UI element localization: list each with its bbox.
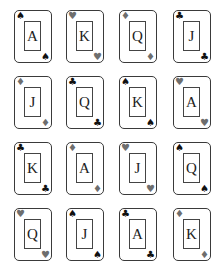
- heart-icon: ♥: [121, 143, 130, 153]
- heart-icon: ♥: [175, 77, 184, 87]
- playing-card[interactable]: ♣K♣: [14, 142, 52, 195]
- card-rank: J: [82, 227, 88, 242]
- card-face-frame: Q: [129, 21, 146, 51]
- playing-card[interactable]: ♦J♦: [14, 76, 52, 129]
- playing-card[interactable]: ♠A♠: [14, 10, 52, 63]
- diamond-icon: ♦: [121, 11, 130, 21]
- club-icon: ♣: [93, 118, 102, 128]
- playing-card[interactable]: ♦A♦: [66, 142, 104, 195]
- club-icon: ♣: [146, 250, 155, 260]
- card-face-frame: K: [24, 153, 41, 183]
- club-icon: ♣: [175, 11, 184, 21]
- card-rank: K: [132, 95, 143, 110]
- heart-icon: ♥: [16, 209, 25, 219]
- club-icon: ♣: [121, 209, 130, 219]
- card-face-frame: A: [183, 87, 200, 117]
- playing-card[interactable]: ♠Q♠: [173, 142, 211, 195]
- card-rank: J: [135, 161, 141, 176]
- spade-icon: ♠: [16, 11, 25, 21]
- heart-icon: ♥: [41, 250, 50, 260]
- card-face-frame: Q: [183, 153, 200, 183]
- card-rank: J: [30, 95, 36, 110]
- card-rank: A: [186, 95, 197, 110]
- card-face-frame: J: [129, 153, 146, 183]
- card-face-frame: Q: [76, 87, 93, 117]
- card-rank: Q: [132, 29, 143, 44]
- spade-icon: ♠: [41, 52, 50, 62]
- playing-card[interactable]: ♥Q♥: [14, 208, 52, 261]
- card-rank: Q: [186, 161, 197, 176]
- club-icon: ♣: [200, 52, 209, 62]
- card-rank: Q: [79, 95, 90, 110]
- card-face-frame: J: [183, 21, 200, 51]
- diamond-icon: ♦: [16, 77, 25, 87]
- spade-icon: ♠: [175, 143, 184, 153]
- playing-card[interactable]: ♦K♦: [173, 208, 211, 261]
- spade-icon: ♠: [200, 184, 209, 194]
- card-rank: Q: [27, 227, 38, 242]
- card-rank: A: [132, 227, 143, 242]
- playing-card[interactable]: ♣Q♣: [66, 76, 104, 129]
- heart-icon: ♥: [93, 52, 102, 62]
- card-rank: K: [79, 29, 90, 44]
- card-face-frame: A: [24, 21, 41, 51]
- club-icon: ♣: [41, 184, 50, 194]
- heart-icon: ♥: [68, 11, 77, 21]
- diamond-icon: ♦: [175, 209, 184, 219]
- club-icon: ♣: [68, 77, 77, 87]
- card-rank: A: [27, 29, 38, 44]
- diamond-icon: ♦: [200, 250, 209, 260]
- card-face-frame: A: [129, 219, 146, 249]
- playing-card[interactable]: ♠K♠: [119, 76, 157, 129]
- diamond-icon: ♦: [146, 52, 155, 62]
- spade-icon: ♠: [121, 77, 130, 87]
- spade-icon: ♠: [146, 118, 155, 128]
- playing-card[interactable]: ♣J♣: [173, 10, 211, 63]
- heart-icon: ♥: [200, 118, 209, 128]
- playing-card[interactable]: ♥A♥: [173, 76, 211, 129]
- card-face-frame: Q: [24, 219, 41, 249]
- card-rank: A: [79, 161, 90, 176]
- card-face-frame: A: [76, 153, 93, 183]
- spade-icon: ♠: [93, 250, 102, 260]
- playing-card[interactable]: ♣A♣: [119, 208, 157, 261]
- card-face-frame: K: [183, 219, 200, 249]
- card-rank: K: [186, 227, 197, 242]
- card-face-frame: K: [129, 87, 146, 117]
- card-face-frame: K: [76, 21, 93, 51]
- club-icon: ♣: [16, 143, 25, 153]
- card-face-frame: J: [24, 87, 41, 117]
- playing-card[interactable]: ♦Q♦: [119, 10, 157, 63]
- playing-card[interactable]: ♠J♠: [66, 208, 104, 261]
- playing-card[interactable]: ♥J♥: [119, 142, 157, 195]
- diamond-icon: ♦: [41, 118, 50, 128]
- card-rank: J: [189, 29, 195, 44]
- card-face-frame: J: [76, 219, 93, 249]
- heart-icon: ♥: [146, 184, 155, 194]
- playing-card[interactable]: ♥K♥: [66, 10, 104, 63]
- diamond-icon: ♦: [68, 143, 77, 153]
- spade-icon: ♠: [68, 209, 77, 219]
- diamond-icon: ♦: [93, 184, 102, 194]
- card-rank: K: [27, 161, 38, 176]
